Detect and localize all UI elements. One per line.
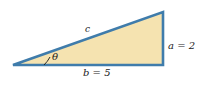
opposite-side-label: a = 2 <box>168 41 195 51</box>
triangle-shape <box>13 12 163 65</box>
adjacent-side-label: b = 5 <box>83 68 111 78</box>
angle-theta-label: θ <box>52 52 58 62</box>
triangle-figure: c a = 2 b = 5 θ <box>0 0 199 85</box>
hypotenuse-label: c <box>85 25 90 34</box>
